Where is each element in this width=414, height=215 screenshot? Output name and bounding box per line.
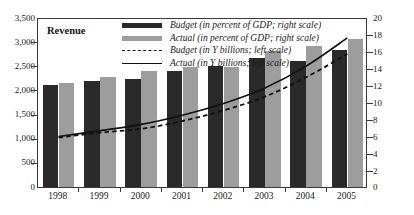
dashed-line-icon	[120, 45, 164, 56]
right-axis-tick-10: 10	[373, 99, 382, 108]
right-axis-tick-6: 6	[373, 133, 378, 142]
right-axis-tick-20: 20	[373, 14, 382, 23]
legend-label: Budget (in percent of GDP; right scale)	[170, 20, 321, 31]
right-axis-tick-0: 0	[373, 183, 378, 192]
panel-label-revenue: Revenue	[47, 25, 86, 36]
legend: Budget (in percent of GDP; right scale) …	[120, 20, 321, 70]
figure-revenue-chart: 3,500 3,000 2,500 2,000 1,500 1,000 500 …	[0, 0, 414, 215]
right-axis-tick-8: 8	[373, 116, 378, 125]
x-axis-label-2005: 2005	[322, 191, 370, 201]
swatch-light-icon	[120, 33, 164, 44]
figure-title	[8, 0, 338, 3]
legend-item-budget-billions: Budget (in Y billions; left scale)	[120, 45, 321, 56]
right-axis-tick-4: 4	[373, 150, 378, 159]
legend-label: Actual (in percent of GDP; right scale)	[170, 33, 319, 44]
swatch-dark-icon	[120, 20, 164, 31]
right-axis-tick-2: 2	[373, 167, 378, 176]
right-axis-tick-16: 16	[373, 48, 382, 57]
legend-item-budget-gdp: Budget (in percent of GDP; right scale)	[120, 20, 321, 31]
left-axis-tick-3500: 3,500	[15, 14, 35, 23]
legend-item-actual-gdp: Actual (in percent of GDP; right scale)	[120, 33, 321, 44]
right-axis-tick-18: 18	[373, 31, 382, 40]
legend-label: Budget (in Y billions; left scale)	[170, 45, 291, 56]
right-axis-tick-14: 14	[373, 65, 382, 74]
right-axis-tick-12: 12	[373, 82, 382, 91]
solid-line-icon	[120, 58, 164, 69]
legend-label: Actual (in Y billions; left scale)	[170, 58, 289, 69]
legend-item-actual-billions: Actual (in Y billions; left scale)	[120, 58, 321, 69]
